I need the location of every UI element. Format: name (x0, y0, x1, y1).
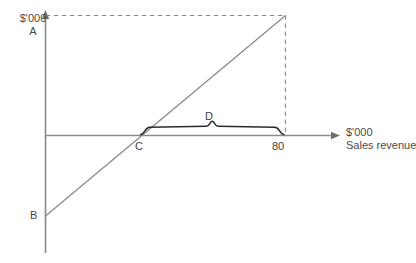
x-axis-tick-label-80: 80 (272, 140, 284, 153)
y-axis-caption: $'000 A (10, 12, 56, 38)
x-axis-caption-line1: $'000 (346, 126, 373, 138)
profit-line (46, 16, 286, 217)
x-axis-caption-line2: Sales revenue (346, 139, 416, 152)
point-label-b: B (30, 209, 37, 222)
y-axis-caption-line2: A (10, 25, 56, 38)
point-label-d: D (205, 110, 213, 123)
x-axis-caption: $'000 Sales revenue (346, 126, 416, 152)
point-label-c: C (135, 140, 143, 153)
y-axis-caption-line1: $'000 (20, 12, 47, 24)
brace-d (141, 121, 285, 134)
x-axis-arrowhead (331, 132, 340, 139)
